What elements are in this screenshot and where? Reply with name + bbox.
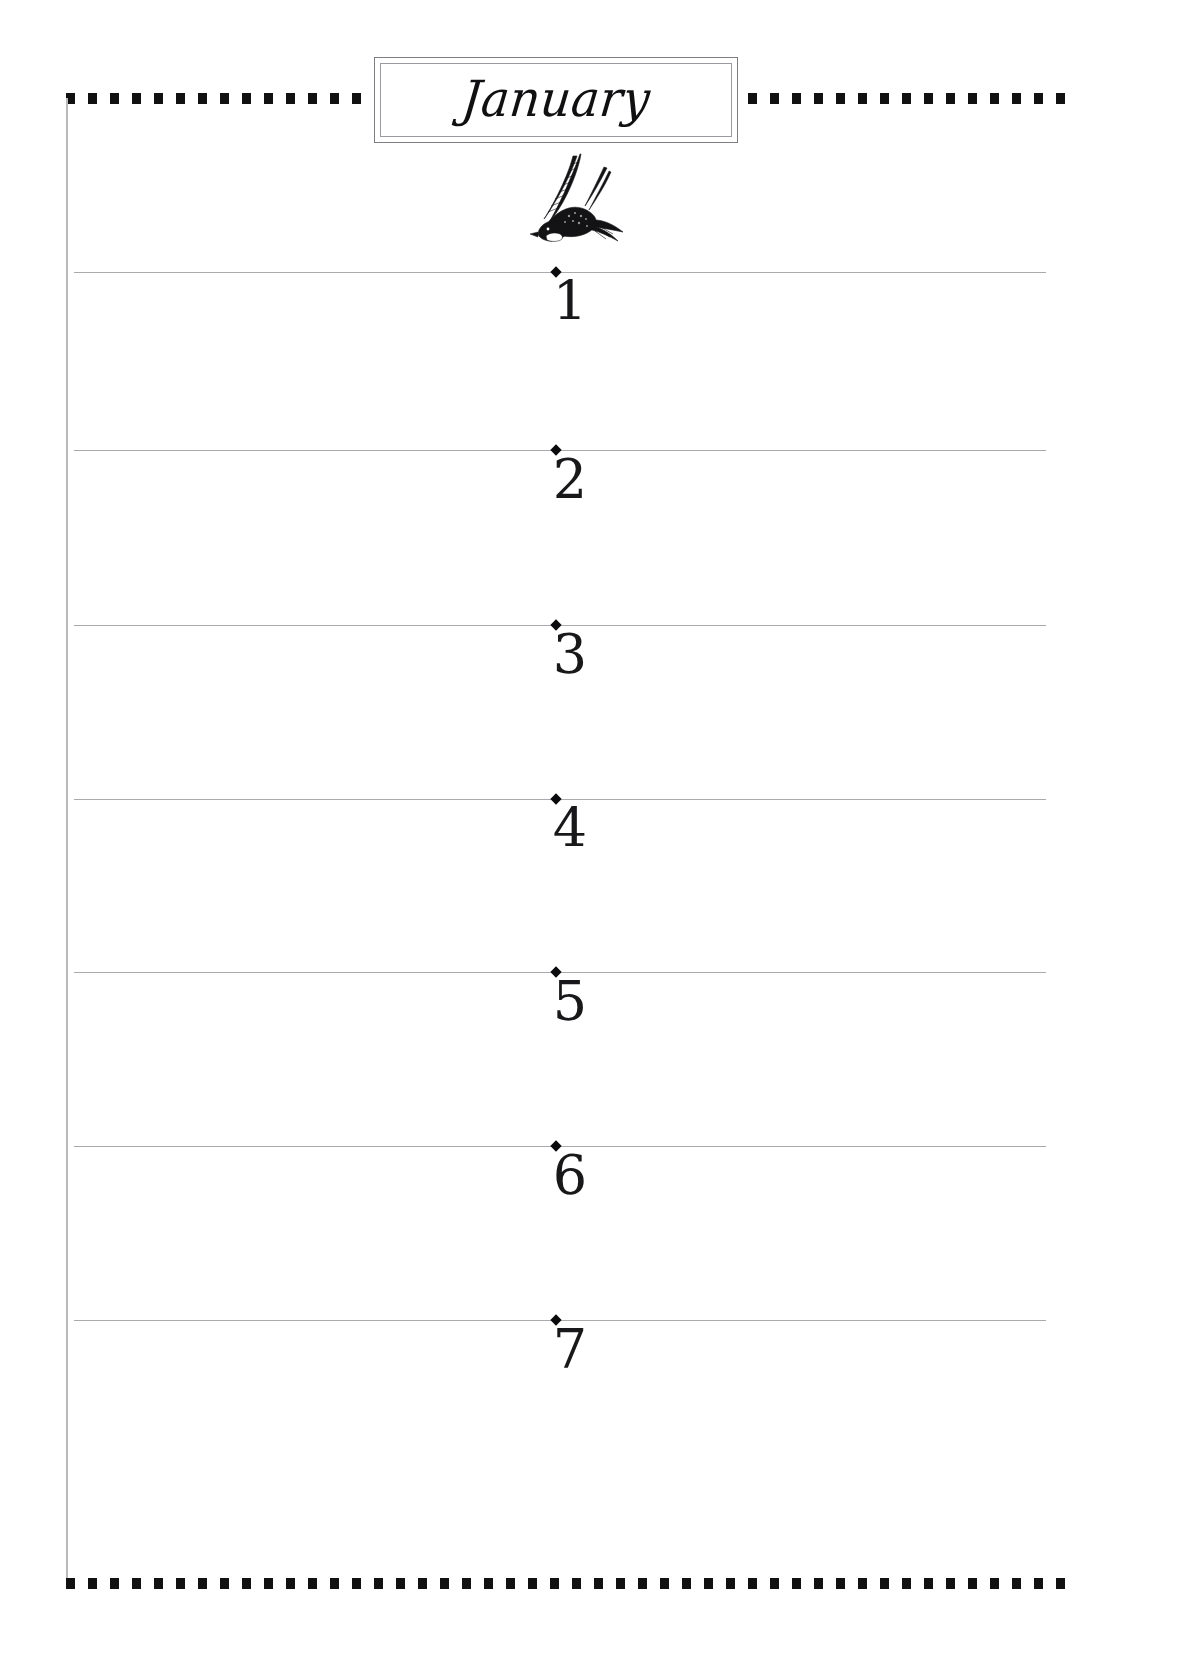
- month-title-plate: January: [374, 57, 738, 143]
- frame-bottom-dotted-border: [66, 1578, 1066, 1589]
- day-number: 7: [540, 1323, 600, 1377]
- day-number: 5: [540, 975, 600, 1029]
- day-number: 1: [540, 275, 600, 329]
- day-number: 3: [540, 628, 600, 682]
- month-title-plate-inner-border: January: [380, 63, 732, 137]
- frame-top-dotted-border-right: [748, 93, 1066, 104]
- day-number: 4: [540, 802, 600, 856]
- calendar-page: January: [0, 0, 1181, 1677]
- day-number: 2: [540, 453, 600, 507]
- frame-left-border: [66, 98, 68, 1584]
- swallow-bird-icon: [503, 150, 627, 262]
- frame-top-dotted-border-left: [66, 93, 366, 104]
- day-number: 6: [540, 1149, 600, 1203]
- page-title: January: [459, 73, 653, 127]
